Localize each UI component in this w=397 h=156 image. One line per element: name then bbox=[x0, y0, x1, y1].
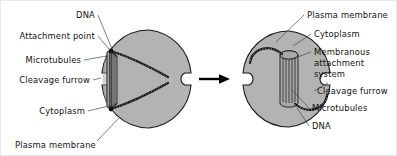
label-left-cleavage-furrow: Cleavage furrow bbox=[19, 75, 90, 85]
label-left-cytoplasm: Cytoplasm bbox=[39, 106, 85, 116]
label-right-plasma-membrane: Plasma membrane bbox=[307, 10, 388, 20]
label-right-cytoplasm: Cytoplasm bbox=[314, 29, 360, 39]
label-right-membranous-line1: Membranous bbox=[314, 47, 370, 57]
label-left-microtubules: Microtubules bbox=[26, 55, 81, 65]
leader-left-plasma-membrane bbox=[97, 117, 120, 141]
label-right-membranous-line3: system bbox=[314, 69, 345, 79]
left-membranous-attachment-system bbox=[107, 51, 117, 109]
leader-left-cleavage-furrow bbox=[93, 78, 101, 80]
label-left-plasma-membrane: Plasma membrane bbox=[15, 140, 96, 150]
left-cell-group bbox=[102, 30, 191, 128]
cell-division-figure: DNA Attachment point Microtubules Cleava… bbox=[0, 0, 397, 156]
label-right-dna: DNA bbox=[312, 121, 331, 131]
leader-left-attachment-point bbox=[98, 36, 110, 50]
right-membranous-attachment-system bbox=[280, 51, 298, 107]
label-left-attachment-point: Attachment point bbox=[19, 31, 95, 41]
label-right-microtubules: Microtubules bbox=[312, 103, 367, 113]
label-right-cleavage-furrow: Cleavage furrow bbox=[317, 86, 388, 96]
label-left-dna: DNA bbox=[76, 10, 95, 20]
left-attachment-point-lower bbox=[109, 107, 114, 112]
label-right-membranous-line2: attachment bbox=[314, 58, 365, 68]
leader-left-microtubules bbox=[84, 56, 107, 60]
progression-arrow bbox=[199, 74, 230, 84]
